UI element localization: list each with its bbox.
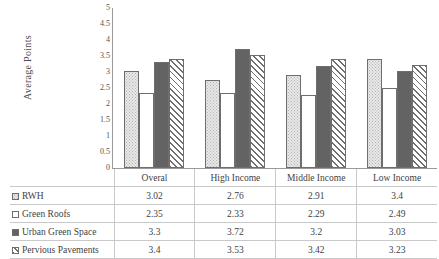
bar: [139, 93, 154, 168]
data-cell: 3.72: [195, 223, 276, 241]
data-cell: 2.33: [195, 205, 276, 223]
column-header: Low Income: [357, 169, 437, 187]
table-row: RWH3.022.762.913.4: [10, 187, 437, 205]
bar: [250, 55, 265, 168]
bar: [154, 62, 169, 168]
bar-group: [113, 8, 194, 168]
y-axis-tick-labels: 54.543.532.521.510.50: [86, 0, 110, 170]
data-cell: 2.49: [357, 205, 437, 223]
bar: [169, 59, 184, 168]
data-cell: 2.35: [114, 205, 195, 223]
data-cell: 3.4: [114, 241, 195, 259]
bar-group: [275, 8, 356, 168]
bar: [205, 80, 220, 168]
data-table-body: OveralHigh IncomeMiddle IncomeLow Income…: [10, 169, 437, 259]
table-row: Pervious Pavements3.43.533.423.23: [10, 241, 437, 259]
legend-label: RWH: [22, 191, 44, 201]
bar: [235, 49, 250, 168]
data-table: OveralHigh IncomeMiddle IncomeLow Income…: [10, 169, 437, 259]
data-cell: 3.53: [195, 241, 276, 259]
bar: [331, 59, 346, 168]
y-axis-tick-label: 0.5: [86, 148, 110, 156]
data-cell: 3.42: [276, 241, 357, 259]
legend-label: Pervious Pavements: [22, 245, 99, 255]
bar-group: [194, 8, 275, 168]
bar-group: [356, 8, 437, 168]
bar: [397, 71, 412, 168]
data-cell: 3.3: [114, 223, 195, 241]
plot-region: Average Points 54.543.532.521.510.50: [0, 0, 439, 170]
data-cell: 3.23: [357, 241, 437, 259]
column-header: High Income: [195, 169, 276, 187]
legend-cell: Pervious Pavements: [10, 241, 114, 259]
data-cell: 3.4: [357, 187, 437, 205]
bar: [286, 75, 301, 168]
data-cell: 2.76: [195, 187, 276, 205]
legend-swatch-icon: [12, 229, 19, 236]
data-cell: 2.29: [276, 205, 357, 223]
table-header-row: OveralHigh IncomeMiddle IncomeLow Income: [10, 169, 437, 187]
y-axis-tick-label: 4: [86, 36, 110, 44]
legend-swatch-icon: [12, 193, 19, 200]
y-axis-tick-label: 5: [86, 4, 110, 12]
legend-cell: Green Roofs: [10, 205, 114, 223]
table-corner-cell: [10, 169, 114, 187]
bars-area: [113, 8, 437, 168]
y-axis-tick-label: 1: [86, 132, 110, 140]
y-axis-tick-label: 2.5: [86, 84, 110, 92]
data-cell: 3.03: [357, 223, 437, 241]
data-cell: 2.91: [276, 187, 357, 205]
y-axis-tick-label: 3.5: [86, 52, 110, 60]
column-header: Overal: [114, 169, 195, 187]
legend-cell: Urban Green Space: [10, 223, 114, 241]
bar: [220, 93, 235, 168]
y-axis-tick-label: 1.5: [86, 116, 110, 124]
y-axis-tick-label: 2: [86, 100, 110, 108]
column-header: Middle Income: [276, 169, 357, 187]
bar: [124, 71, 139, 168]
legend-cell: RWH: [10, 187, 114, 205]
table-row: Green Roofs2.352.332.292.49: [10, 205, 437, 223]
y-axis-tick-label: 3: [86, 68, 110, 76]
y-axis-title: Average Points: [22, 3, 33, 133]
legend-label: Green Roofs: [22, 209, 70, 219]
legend-swatch-icon: [12, 211, 19, 218]
data-cell: 3.02: [114, 187, 195, 205]
bar: [316, 66, 331, 168]
table-row: Urban Green Space3.33.723.23.03: [10, 223, 437, 241]
legend-label: Urban Green Space: [22, 227, 96, 237]
legend-swatch-icon: [12, 247, 19, 254]
bar: [412, 65, 427, 168]
bar: [382, 88, 397, 168]
bar: [301, 95, 316, 168]
y-axis-tick-label: 4.5: [86, 20, 110, 28]
bar: [367, 59, 382, 168]
data-cell: 3.2: [276, 223, 357, 241]
